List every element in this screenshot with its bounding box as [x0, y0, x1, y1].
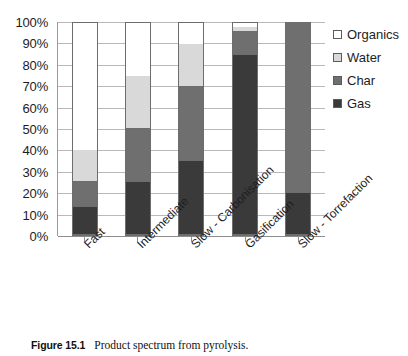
bar-segment-water[interactable]: [179, 44, 203, 86]
bar-segment-char[interactable]: [126, 129, 150, 182]
legend-label: Water: [347, 51, 381, 64]
bar-stack: [125, 22, 151, 236]
legend-item[interactable]: Water: [333, 46, 407, 68]
y-axis-tick-label: 70%: [0, 80, 48, 93]
figure-product-spectrum: 100%90%80%70%60%50%40%30%20%10%0% FastIn…: [0, 0, 408, 356]
y-axis-tick-label: 40%: [0, 144, 48, 157]
chart-legend: OrganicsWaterCharGas: [333, 23, 407, 115]
legend-label: Organics: [347, 28, 399, 41]
bar-segment-water[interactable]: [73, 150, 97, 182]
caption-label: Figure 15.1: [31, 339, 85, 351]
bar-segment-char[interactable]: [233, 32, 257, 55]
caption-text: Product spectrum from pyrolysis.: [94, 339, 248, 351]
y-axis-tick-label: 50%: [0, 123, 48, 136]
bar-column[interactable]: [72, 22, 98, 236]
y-axis-tick-label: 60%: [0, 102, 48, 115]
bar-stack: [72, 22, 98, 236]
legend-item[interactable]: Organics: [333, 23, 407, 45]
y-axis-tick-label: 80%: [0, 59, 48, 72]
y-axis-tick-label: 30%: [0, 166, 48, 179]
x-axis: FastIntermediateSlow - CarbonisationGasi…: [57, 236, 325, 246]
bar-segment-organics[interactable]: [73, 23, 97, 150]
y-axis: 100%90%80%70%60%50%40%30%20%10%0%: [0, 14, 48, 244]
legend-item[interactable]: Char: [333, 69, 407, 91]
y-axis-tick-label: 90%: [0, 37, 48, 50]
bar-segment-gas[interactable]: [126, 182, 150, 235]
legend-swatch-icon: [333, 99, 342, 108]
bar-segment-water[interactable]: [126, 76, 150, 129]
legend-swatch-icon: [333, 53, 342, 62]
bar-segment-organics[interactable]: [126, 23, 150, 76]
legend-label: Char: [347, 74, 375, 87]
y-axis-tick-label: 20%: [0, 187, 48, 200]
legend-label: Gas: [347, 97, 371, 110]
bar-column[interactable]: [125, 22, 151, 236]
y-axis-tick-label: 10%: [0, 209, 48, 222]
legend-item[interactable]: Gas: [333, 92, 407, 114]
bar-segment-organics[interactable]: [179, 23, 203, 44]
bar-segment-char[interactable]: [73, 182, 97, 207]
legend-swatch-icon: [333, 76, 342, 85]
y-axis-tick-label: 100%: [0, 16, 48, 29]
figure-caption: Figure 15.1Product spectrum from pyrolys…: [31, 339, 401, 352]
bar-segment-char[interactable]: [286, 23, 310, 193]
bar-segment-char[interactable]: [179, 87, 203, 161]
legend-swatch-icon: [333, 30, 342, 39]
y-axis-tick-label: 0%: [0, 230, 48, 243]
